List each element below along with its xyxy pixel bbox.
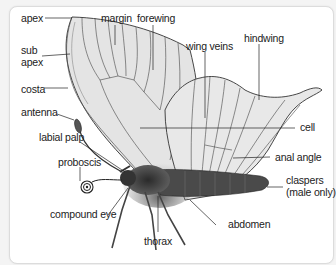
label-sub-apex-line1: sub xyxy=(21,45,37,56)
label-margin: margin xyxy=(101,13,132,24)
label-proboscis: proboscis xyxy=(58,157,101,168)
label-cell: cell xyxy=(300,122,315,133)
label-abdomen: abdomen xyxy=(228,219,270,230)
label-costa: costa xyxy=(21,84,45,95)
label-forewing: forewing xyxy=(137,13,175,24)
label-hindwing: hindwing xyxy=(244,33,284,44)
abdomen-shape xyxy=(155,169,269,196)
label-wing-veins: wing veins xyxy=(186,41,233,52)
label-apex: apex xyxy=(21,13,43,24)
label-claspers-line1: claspers xyxy=(286,175,324,186)
label-thorax: thorax xyxy=(144,236,172,247)
label-antenna: antenna xyxy=(21,107,58,118)
label-labial-palp: labial palp xyxy=(39,132,84,143)
label-compound-eye: compound eye xyxy=(50,209,116,220)
label-claspers-line2: (male only) xyxy=(286,187,336,198)
label-sub-apex-line2: apex xyxy=(21,57,43,68)
proboscis-shape xyxy=(92,180,122,183)
label-anal-angle: anal angle xyxy=(275,152,321,163)
